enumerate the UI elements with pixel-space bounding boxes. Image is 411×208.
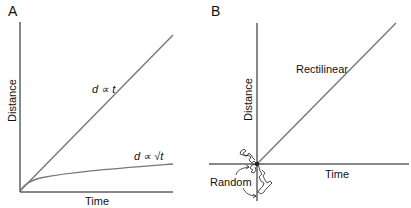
figure: A d ∝ t d ∝ √t Time Distance B	[0, 0, 411, 208]
panel-a-x-label: Time	[85, 195, 109, 207]
panel-b-x-label: Time	[325, 168, 349, 180]
panel-a: A d ∝ t d ∝ √t Time Distance	[6, 3, 173, 207]
panel-a-y-label: Distance	[6, 79, 18, 122]
panel-b-rectilinear-line	[257, 23, 396, 164]
panel-b-y-label: Distance	[242, 78, 254, 121]
panel-a-letter: A	[8, 3, 18, 19]
panel-a-linear-curve	[20, 35, 173, 191]
panel-b-random-label: Random	[210, 176, 252, 188]
panel-b-rectilinear-label: Rectilinear	[296, 63, 348, 75]
panel-a-sqrt-label: d ∝ √t	[134, 150, 164, 162]
panel-b-letter: B	[211, 3, 220, 19]
panel-b: B Rectilinear Random Time Distance	[209, 3, 409, 201]
panel-a-linear-label: d ∝ t	[92, 83, 116, 95]
